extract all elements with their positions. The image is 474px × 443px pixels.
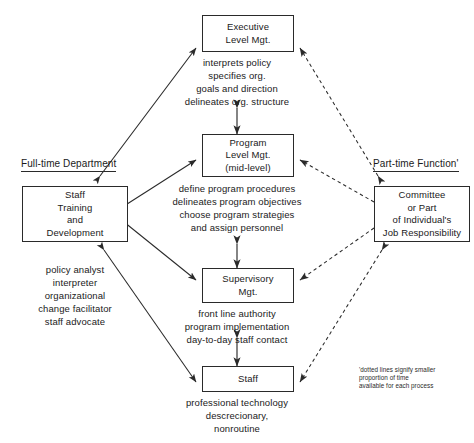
node-training-line-2: and [67,214,83,227]
node-training-line-1: Training [58,202,93,215]
description-program-line-0: define program procedures [132,182,342,195]
node-committee-line-3: Job Responsibility [383,227,461,240]
description-supervisory: front line authority program implementat… [139,307,335,346]
description-supervisory-line-2: day-to-day staff contact [139,333,335,346]
footnote-line-2: available for each process [359,382,471,390]
description-staff-line-1: descrecionary, [144,409,330,422]
description-supervisory-line-1: program implementation [139,320,335,333]
description-program-line-2: choose program strategies [132,208,342,221]
footnote-line-1: proportion of time [359,374,471,382]
description-executive-line-2: goals and direction [137,82,337,95]
description-staff-line-2: nonroutine [144,422,330,435]
node-training-line-0: Staff [65,189,85,202]
description-program: define program procedures delineates pro… [132,182,342,234]
node-program-level-mgt[interactable]: Program Level Mgt. (mid-level) [202,134,294,177]
node-staff-training-and-development[interactable]: Staff Training and Development [22,186,128,242]
node-supervisory-line-0: Supervisory [222,273,273,286]
footnote-line-0: 'dotted lines signify smaller [359,366,471,374]
node-executive-line-0: Executive [227,21,269,34]
description-training-line-2: organizational [13,289,137,302]
node-program-line-1: Level Mgt. [226,149,271,162]
description-training-line-4: staff advocate [13,315,137,328]
description-training-line-3: change facilitator [13,302,137,315]
description-executive-line-0: interprets policy [137,56,337,69]
label-full-time-department: Full-time Department [21,157,116,172]
node-supervisory-line-1: Mgt. [239,286,258,299]
label-part-time-function: Part-time Function' [373,157,459,172]
node-supervisory-mgt[interactable]: Supervisory Mgt. [202,268,294,303]
description-executive-line-1: specifies org. [137,69,337,82]
description-staff-training: policy analyst interpreter organizationa… [13,263,137,328]
node-committee-line-1: or Part [407,202,436,215]
node-staff-line-0: Staff [238,373,258,386]
description-supervisory-line-0: front line authority [139,307,335,320]
description-staff-line-0: professional technology [144,396,330,409]
node-program-line-0: Program [229,137,266,150]
description-staff: professional technology descrecionary, n… [144,396,330,435]
footnote-dotted-lines: 'dotted lines signify smaller proportion… [359,366,471,391]
node-executive-line-1: Level Mgt. [226,34,271,47]
arrow-committee-to-supervisory [300,228,374,280]
node-program-line-2: (mid-level) [225,162,270,175]
diagram-canvas: Executive Level Mgt. interprets policy s… [0,0,474,443]
description-program-line-3: and assign personnel [132,221,342,234]
node-executive-level-mgt[interactable]: Executive Level Mgt. [202,15,294,52]
description-training-line-1: interpreter [13,276,137,289]
description-executive-line-3: delineates org. structure [137,95,337,108]
description-training-line-0: policy analyst [13,263,137,276]
description-program-line-1: delineates program objectives [132,195,342,208]
node-committee-or-part-of-individuals-job-responsibility[interactable]: Committee or Part of Individual's Job Re… [374,186,470,242]
node-staff[interactable]: Staff [202,366,294,392]
description-executive: interprets policy specifies org. goals a… [137,56,337,108]
node-committee-line-0: Committee [399,189,446,202]
node-training-line-3: Development [46,227,103,240]
node-committee-line-2: of Individual's [393,214,452,227]
